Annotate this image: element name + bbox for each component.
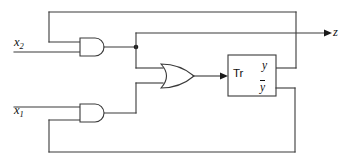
circuit-schematic-svg xyxy=(0,0,353,163)
wire-or-to-tr xyxy=(193,73,228,80)
input-label-x2: x2 xyxy=(14,36,24,49)
input-label-x1: x1 xyxy=(14,104,24,117)
tr-port-label-y-bar: y xyxy=(260,80,265,94)
or-gate xyxy=(161,64,194,88)
wire-and-bottom-to-or xyxy=(104,83,163,113)
tr-port-label-y: y xyxy=(262,60,267,72)
or-gate-body xyxy=(161,64,194,88)
and-gate-top xyxy=(80,38,104,56)
arrowhead-tr-input xyxy=(220,73,228,80)
wire-z-output-path xyxy=(136,30,332,48)
wire-and-top-to-or xyxy=(136,47,163,68)
output-label-z: z xyxy=(333,26,338,39)
and-gate-top-body xyxy=(80,38,104,56)
tr-block-label: Tr xyxy=(233,68,243,80)
circuit-diagram-canvas: x2 x1 z Tr y y xyxy=(0,0,353,163)
and-gate-bottom xyxy=(80,104,104,122)
and-gate-bottom-body xyxy=(80,104,104,122)
arrowhead-z-output xyxy=(324,30,332,37)
